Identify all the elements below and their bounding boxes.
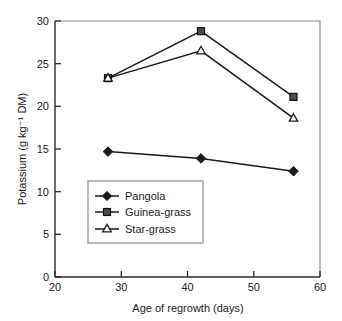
y-tick-label-15: 15 [37,143,49,155]
series-pangola [103,147,298,176]
potassium-line-chart: 0 5 10 15 20 25 30 20 30 40 50 60 Age of… [0,0,342,321]
series-guinea-grass [105,28,298,101]
marker-pangola-28 [103,147,113,157]
chart-figure: 0 5 10 15 20 25 30 20 30 40 50 60 Age of… [0,0,342,321]
y-tick-label-25: 25 [37,58,49,70]
series-guinea-grass-line [108,31,294,97]
x-tick-label-20: 20 [49,281,61,293]
x-tick-label-30: 30 [115,281,127,293]
x-axis-tick-labels: 20 30 40 50 60 [49,281,326,293]
y-axis-ticks [55,21,61,277]
y-tick-label-20: 20 [37,100,49,112]
marker-guinea-grass-56 [290,93,297,100]
marker-star-grass-56 [289,114,297,122]
marker-pangola-56 [289,166,299,176]
series-star-grass-line [108,51,294,118]
legend-label-star-grass: Star-grass [125,223,176,235]
x-axis-title: Age of regrowth (days) [132,302,243,314]
legend-label-guinea-grass: Guinea-grass [125,206,192,218]
legend-marker-guinea-grass-square-icon [104,209,111,216]
x-tick-label-60: 60 [314,281,326,293]
y-tick-label-10: 10 [37,186,49,198]
x-tick-label-50: 50 [248,281,260,293]
legend-label-pangola: Pangola [125,190,166,202]
marker-guinea-grass-42 [198,28,205,35]
marker-pangola-42 [196,154,206,164]
y-axis-title: Potassium (g kg⁻¹ DM) [16,93,28,205]
y-axis-tick-labels: 0 5 10 15 20 25 30 [37,15,49,283]
y-tick-label-30: 30 [37,15,49,27]
marker-star-grass-42 [197,46,205,54]
chart-legend: Pangola Guinea-grass Star-grass [88,181,203,243]
x-axis-ticks [55,271,320,277]
series-star-grass [104,46,298,121]
y-tick-label-5: 5 [43,228,49,240]
x-tick-label-40: 40 [181,281,193,293]
